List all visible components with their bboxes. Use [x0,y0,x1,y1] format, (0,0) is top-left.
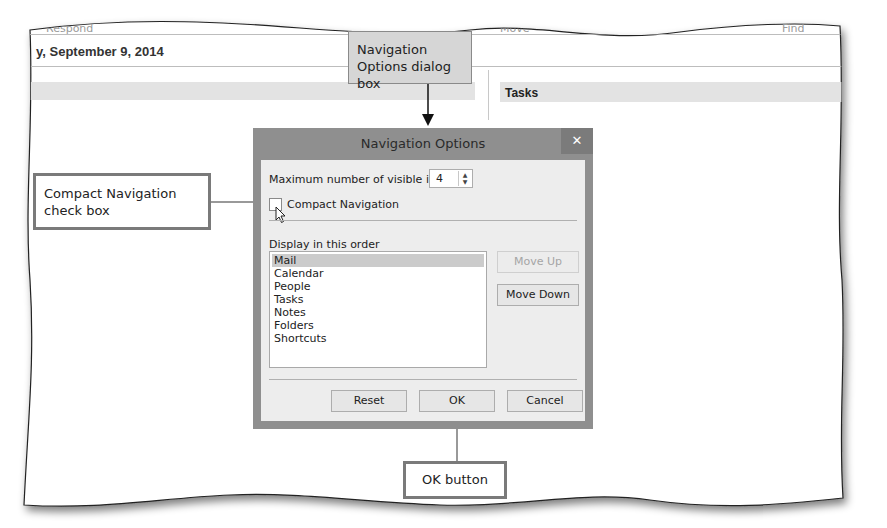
spin-up-icon[interactable]: ▲ [459,171,471,178]
compact-navigation-label[interactable]: Compact Navigation [287,198,399,211]
dialog-title: Navigation Options [361,136,485,151]
list-item-calendar[interactable]: Calendar [272,267,484,280]
cancel-button[interactable]: Cancel [507,390,583,412]
close-button[interactable]: ✕ [561,128,593,154]
ok-button[interactable]: OK [419,390,495,412]
display-order-label: Display in this order [269,238,379,251]
list-item-notes[interactable]: Notes [272,306,484,319]
separator [269,379,577,380]
mouse-pointer-icon [275,206,287,224]
dialog-body: Maximum number of visible items: 4 ▲ ▼ C… [261,160,585,421]
move-up-button[interactable]: Move Up [497,251,579,273]
callout-text: OK button [422,472,488,487]
callout-compact-navigation-checkbox: Compact Navigation check box [33,173,211,230]
spinner-buttons[interactable]: ▲ ▼ [458,171,471,186]
max-visible-items-value[interactable]: 4 [436,172,443,185]
callout-text-line: Compact Navigation [44,185,200,202]
navigation-options-dialog: Navigation Options ✕ Maximum number of v… [253,128,593,429]
spin-down-icon[interactable]: ▼ [459,178,471,185]
callout-ok-button: OK button [403,461,507,499]
display-order-listbox[interactable]: Mail Calendar People Tasks Notes Folders… [269,251,487,368]
list-item-people[interactable]: People [272,280,484,293]
close-icon: ✕ [572,133,583,148]
list-item-shortcuts[interactable]: Shortcuts [272,332,484,345]
list-item-mail[interactable]: Mail [272,254,484,267]
reset-button[interactable]: Reset [331,390,407,412]
max-visible-items-spinner[interactable]: 4 ▲ ▼ [429,169,473,188]
callout-text-line: check box [44,202,200,219]
move-down-button[interactable]: Move Down [497,284,579,306]
list-item-folders[interactable]: Folders [272,319,484,332]
dialog-title-bar[interactable]: Navigation Options ✕ [261,128,585,160]
separator [269,220,577,221]
list-item-tasks[interactable]: Tasks [272,293,484,306]
